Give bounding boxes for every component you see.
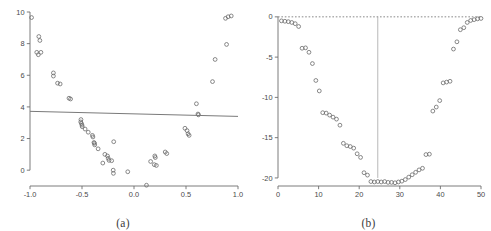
data-point	[293, 22, 297, 26]
y-axis-tick-label: -20	[262, 174, 273, 183]
data-point	[58, 82, 62, 86]
data-point	[110, 159, 114, 163]
data-point	[311, 62, 315, 66]
y-axis-tick-label: -10	[262, 93, 273, 102]
y-axis-tick-label: 0	[268, 12, 272, 21]
y-axis-tick-label: -15	[262, 133, 273, 142]
x-axis-tick-label: 0.0	[129, 190, 139, 199]
data-point	[421, 166, 425, 170]
data-point	[314, 79, 318, 83]
data-point	[126, 170, 130, 174]
data-point	[352, 146, 356, 150]
data-point	[297, 25, 301, 29]
data-point	[56, 81, 60, 85]
y-axis-tick-label: 2	[20, 134, 24, 143]
panel-a-caption: (a)	[0, 217, 246, 229]
data-point	[341, 141, 345, 145]
y-axis-tick-label: 4	[20, 103, 24, 112]
x-axis-tick-label: -0.5	[76, 190, 89, 199]
x-axis-tick-label: 50	[477, 190, 485, 199]
data-point	[410, 173, 414, 177]
data-point	[403, 178, 407, 182]
data-point	[149, 160, 153, 164]
data-point	[86, 130, 90, 134]
x-axis-tick-label: 1.0	[233, 190, 243, 199]
y-axis-tick-label: 10	[16, 8, 24, 17]
data-point	[335, 117, 339, 121]
data-point	[407, 175, 411, 179]
panel-b: 0-5-10-15-2001020304050 (b)	[246, 0, 491, 231]
data-point	[213, 58, 217, 62]
data-point	[455, 40, 459, 44]
data-point	[83, 127, 87, 131]
data-point	[438, 99, 442, 103]
data-point	[112, 140, 116, 144]
x-axis-tick-label: 30	[396, 190, 404, 199]
data-point	[431, 109, 435, 113]
data-point	[366, 173, 370, 177]
data-point	[452, 47, 456, 51]
data-point	[37, 35, 41, 39]
data-point	[338, 123, 342, 127]
data-point	[211, 80, 215, 84]
x-axis-tick-label: 10	[314, 190, 322, 199]
data-point	[101, 161, 105, 165]
data-point	[38, 39, 42, 43]
x-axis-tick-label: -1.0	[24, 190, 37, 199]
regression-fit-line	[30, 111, 238, 116]
data-point	[183, 126, 187, 130]
scatter-plot-a: 0246810-1.0-0.50.00.51.0	[0, 0, 246, 231]
data-point	[307, 50, 311, 54]
data-point	[362, 171, 366, 175]
data-point	[355, 152, 359, 156]
data-point	[145, 183, 149, 187]
data-point	[317, 89, 321, 93]
panel-b-caption: (b)	[246, 217, 491, 229]
y-axis-tick-label: -5	[266, 53, 273, 62]
panel-a: 0246810-1.0-0.50.00.51.0 (a)	[0, 0, 246, 231]
x-axis-tick-label: 0	[276, 190, 280, 199]
y-axis-tick-label: 8	[20, 39, 24, 48]
x-axis-tick-label: 40	[436, 190, 444, 199]
data-point	[195, 102, 199, 106]
data-point	[359, 156, 363, 160]
y-axis-tick-label: 6	[20, 71, 24, 80]
data-point	[96, 147, 100, 151]
y-axis-tick-label: 0	[20, 166, 24, 175]
data-point	[434, 105, 438, 109]
figure-container: 0246810-1.0-0.50.00.51.0 (a) 0-5-10-15-2…	[0, 0, 491, 231]
x-axis-tick-label: 0.5	[181, 190, 191, 199]
data-point	[225, 43, 229, 47]
data-point	[462, 26, 466, 30]
data-point	[414, 170, 418, 174]
scatter-plot-b: 0-5-10-15-2001020304050	[246, 0, 491, 231]
x-axis-tick-label: 20	[355, 190, 363, 199]
data-point	[39, 50, 43, 54]
